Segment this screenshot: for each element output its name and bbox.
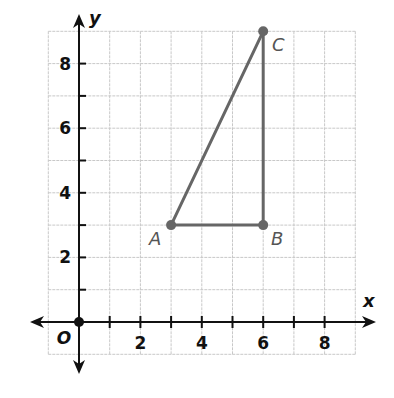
x-tick-label: 4 — [196, 333, 208, 353]
grid — [48, 31, 355, 354]
origin-point — [74, 317, 84, 327]
point-label-c: C — [272, 34, 285, 55]
x-tick-label: 8 — [319, 333, 331, 353]
y-tick-label: 8 — [59, 54, 71, 74]
origin-label: O — [57, 328, 71, 348]
y-tick-label: 4 — [59, 183, 71, 203]
x-tick-label: 6 — [257, 333, 269, 353]
coordinate-plane: 24682468xyOABC — [0, 0, 394, 398]
y-tick-label: 2 — [59, 247, 71, 267]
labels: 24682468xyOABC — [57, 7, 376, 353]
y-tick-label: 6 — [59, 118, 71, 138]
x-tick-label: 2 — [134, 333, 146, 353]
point-c — [258, 26, 268, 36]
y-axis-label: y — [89, 7, 102, 28]
point-b — [258, 220, 268, 230]
point-label-a: A — [148, 228, 161, 249]
x-axis-label: x — [362, 290, 376, 311]
point-label-b: B — [271, 228, 283, 249]
point-a — [166, 220, 176, 230]
